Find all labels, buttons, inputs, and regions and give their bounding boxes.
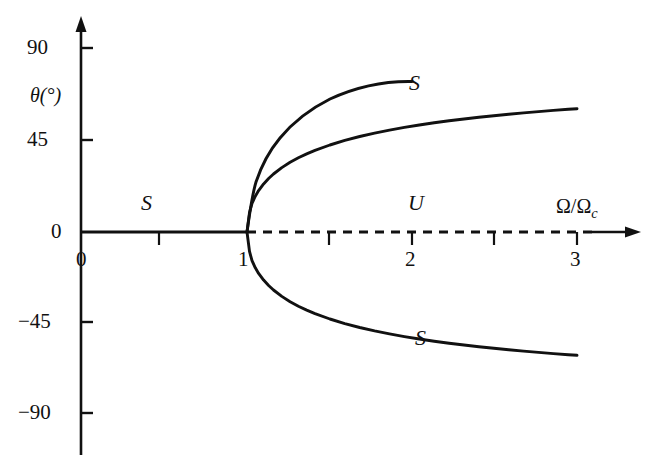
y-tick-label-0: 0	[51, 221, 62, 242]
label-unstable: U	[408, 192, 424, 214]
x-tick-label-0: 0	[76, 249, 87, 270]
label-stable-flat: S	[141, 192, 152, 214]
x-axis-title-main: Ω/Ω	[556, 195, 591, 217]
y-tick-label-45: 45	[27, 129, 48, 150]
upper-branch-guide	[247, 73, 470, 232]
x-tick-label-1: 1	[238, 249, 249, 270]
y-axis-title: θ(°)	[30, 85, 61, 105]
y-tick-label-90: 90	[27, 37, 48, 58]
x-tick-label-3: 3	[570, 249, 581, 270]
y-tick-label-minus45: −45	[18, 311, 51, 332]
y-tick-label-minus90: −90	[18, 402, 51, 423]
y-axis	[76, 16, 94, 455]
label-stable-upper: S	[409, 72, 420, 94]
x-tick-label-2: 2	[405, 249, 416, 270]
bifurcation-diagram-figure: 90 45 0 −45 −90 θ(°) 0 1 2 3 Ω/Ωc S U S …	[0, 0, 654, 456]
x-axis	[159, 227, 641, 246]
label-stable-lower: S	[415, 327, 426, 349]
stable-upper-branch-lower-part	[247, 81, 412, 232]
x-axis-title: Ω/Ωc	[556, 196, 598, 220]
x-axis-title-subscript: c	[591, 205, 597, 221]
plot-canvas	[0, 0, 654, 456]
